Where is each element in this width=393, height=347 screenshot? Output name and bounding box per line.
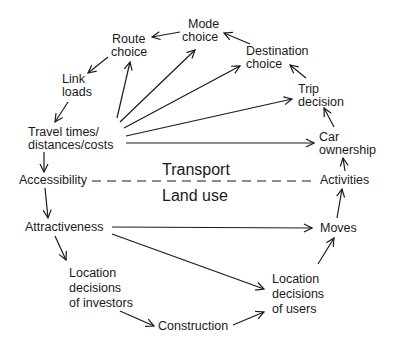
label: Accessibility (19, 174, 87, 187)
edge-car-to-trip (324, 108, 334, 127)
node-destination-choice: Destination choice (246, 45, 309, 71)
label: ownership (319, 144, 376, 157)
label: Location (272, 272, 324, 287)
label-transport: Transport (162, 162, 230, 178)
node-mode-choice: Mode choice (182, 18, 219, 44)
edge-activities-to-car (343, 158, 345, 171)
node-moves: Moves (320, 222, 357, 235)
label: of investors (69, 296, 133, 311)
edge-accessibility-to-attractiveness (45, 188, 48, 218)
edge-construction-to-users (233, 312, 264, 325)
label: Activities (320, 174, 369, 187)
node-trip-decision: Trip decision (298, 83, 344, 109)
label: choice (182, 31, 219, 44)
edge-attractiveness-to-investors (55, 236, 66, 260)
node-activities: Activities (320, 174, 369, 187)
node-route-choice: Route choice (111, 33, 147, 59)
edge-link-to-travel (55, 102, 68, 122)
label: decision (298, 96, 344, 109)
label: decisions (69, 281, 133, 296)
edge-investors-to-construction (120, 311, 154, 326)
edge-travel-to-trip (126, 99, 292, 136)
edge-users-to-moves (318, 238, 334, 264)
node-construction: Construction (158, 320, 228, 333)
label: Location (69, 266, 133, 281)
label: of users (272, 302, 324, 317)
label: decisions (272, 287, 324, 302)
edge-travel-to-mode (120, 50, 195, 122)
edge-route-to-link (88, 57, 108, 73)
label: choice (111, 46, 147, 59)
label: distances/costs (28, 139, 113, 152)
edge-mode-to-route (152, 32, 180, 37)
edge-travel-to-route (117, 62, 130, 118)
edge-attractiveness-to-users (112, 234, 264, 289)
label-land-use: Land use (162, 188, 228, 204)
node-travel-times: Travel times/ distances/costs (28, 126, 113, 152)
label: Construction (158, 320, 228, 333)
edge-travel-to-destination (124, 66, 240, 128)
label: Moves (320, 222, 357, 235)
node-attractiveness: Attractiveness (25, 221, 104, 234)
node-location-investors: Location decisions of investors (69, 266, 133, 311)
label: loads (62, 86, 92, 99)
node-car-ownership: Car ownership (319, 131, 376, 157)
label: Transport (162, 162, 230, 178)
edge-attractiveness-to-moves (112, 227, 312, 228)
label: Attractiveness (25, 221, 104, 234)
node-link-loads: Link loads (62, 73, 92, 99)
edge-destination-to-mode (224, 33, 250, 44)
label: choice (246, 58, 309, 71)
node-accessibility: Accessibility (19, 174, 87, 187)
label: Land use (162, 188, 228, 204)
edge-moves-to-activities (337, 189, 342, 218)
node-location-users: Location decisions of users (272, 272, 324, 317)
